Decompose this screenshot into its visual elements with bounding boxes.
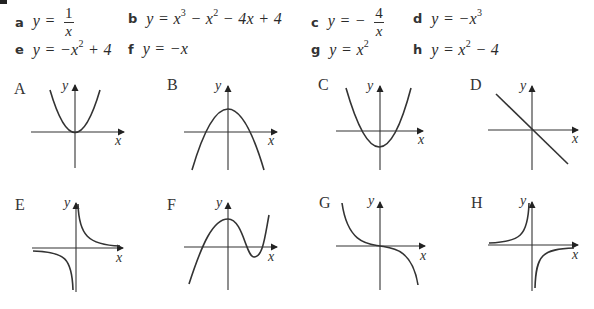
graph-g (336, 202, 425, 290)
curve-cubic (189, 215, 269, 284)
y-axis-label: y (518, 193, 527, 208)
y-axis-label: y (365, 78, 374, 93)
graph-b (184, 86, 277, 170)
x-axis-label: x (267, 249, 275, 264)
y-axis-label: y (214, 195, 223, 210)
curve-parabola (346, 88, 411, 147)
curve-branch-2 (489, 203, 529, 243)
graph-h (488, 202, 578, 291)
y-axis-label: y (366, 193, 375, 208)
graphs-canvas: y x y x y x y x y x y x y x y x (0, 0, 594, 309)
graph-a (31, 85, 124, 168)
x-axis-label: x (115, 250, 123, 265)
graph-e (32, 203, 123, 292)
graph-f (184, 203, 277, 290)
graph-d (488, 86, 578, 170)
graph-c (336, 86, 423, 170)
y-axis-label: y (213, 78, 222, 93)
x-axis-label: x (417, 132, 425, 147)
x-axis-label: x (114, 133, 122, 148)
curve-branch-1 (78, 204, 120, 246)
y-axis-label: y (60, 78, 69, 93)
x-axis-label: x (267, 133, 275, 148)
curve-branch-4 (535, 248, 574, 288)
curve-branch-3 (33, 251, 73, 290)
x-axis-label: x (571, 247, 579, 262)
y-axis-label: y (518, 78, 527, 93)
y-axis-label: y (62, 195, 71, 210)
x-axis-label: x (419, 248, 427, 263)
x-axis-label: x (571, 131, 579, 146)
